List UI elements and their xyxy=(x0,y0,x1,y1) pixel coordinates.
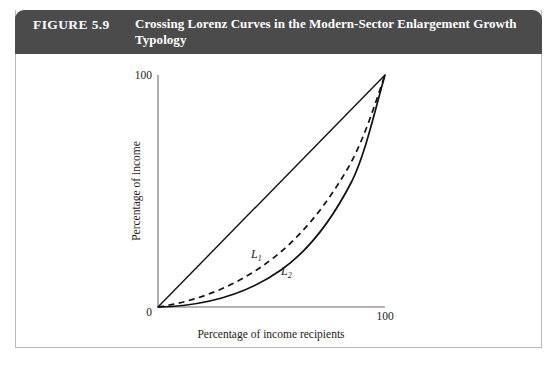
y-axis-tick-0: 0 xyxy=(146,306,152,318)
chart-area: 100 0 100 L1 L2 Percentage of income rec… xyxy=(15,54,542,348)
line-of-equality xyxy=(158,75,385,307)
x-axis-tick-100: 100 xyxy=(376,310,394,322)
y-axis-title: Percentage of income xyxy=(130,141,143,241)
y-axis-tick-100: 100 xyxy=(135,69,153,81)
x-axis-title: Percentage of income recipients xyxy=(197,328,345,341)
curve-label-l2: L2 xyxy=(280,264,292,280)
figure-title: Crossing Lorenz Curves in the Modern-Sec… xyxy=(135,16,530,48)
curve-label-l1: L1 xyxy=(250,247,262,263)
lorenz-curve-chart: 100 0 100 L1 L2 Percentage of income rec… xyxy=(15,54,542,348)
figure-header: FIGURE 5.9 Crossing Lorenz Curves in the… xyxy=(15,10,542,54)
figure-number-label: FIGURE 5.9 xyxy=(33,17,110,33)
